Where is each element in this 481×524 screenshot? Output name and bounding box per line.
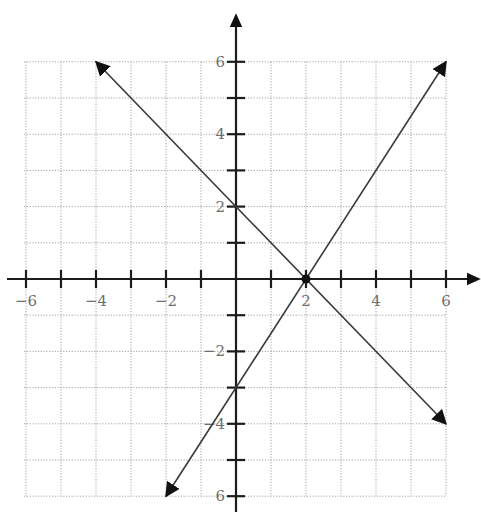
x-tick-label: −4 (85, 292, 107, 310)
y-tick-label: −2 (203, 342, 225, 360)
y-tick-label: −4 (203, 415, 225, 433)
y-tick-label: 6 (215, 53, 225, 71)
y-tick-label: 4 (215, 125, 225, 143)
x-tick-label: −6 (15, 292, 37, 310)
coordinate-plane: −6−4−2246642−2−46 (0, 0, 481, 524)
intersection-point (302, 275, 311, 284)
x-tick-label: −2 (155, 292, 177, 310)
points (302, 275, 311, 284)
x-tick-label: 2 (301, 292, 311, 310)
x-tick-label: 6 (441, 292, 451, 310)
y-tick-label: 6 (215, 487, 225, 505)
x-tick-label: 4 (371, 292, 381, 310)
axes (7, 16, 478, 512)
y-tick-label: 2 (215, 198, 225, 216)
